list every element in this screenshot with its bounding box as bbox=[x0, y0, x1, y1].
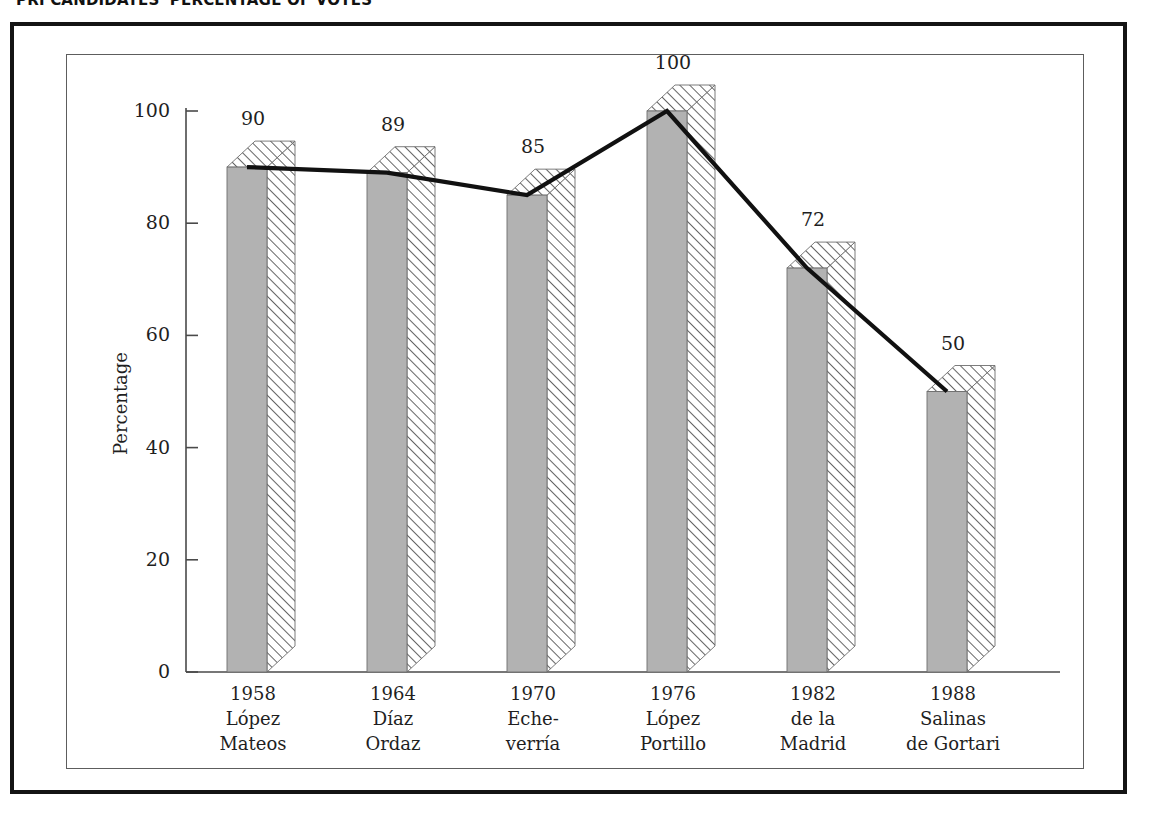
x-tick-candidate-line-1: López bbox=[178, 706, 328, 731]
x-tick-label-1958: 1958LópezMateos bbox=[178, 681, 328, 756]
x-tick-candidate-line-2: Madrid bbox=[738, 731, 888, 756]
bar-value-label-1958: 90 bbox=[213, 107, 293, 129]
x-tick-label-1988: 1988Salinasde Gortari bbox=[878, 681, 1028, 756]
x-tick-year: 1964 bbox=[318, 681, 468, 706]
bar-value-label-1988: 50 bbox=[913, 332, 993, 354]
x-tick-label-1964: 1964DíazOrdaz bbox=[318, 681, 468, 756]
bar-value-label-1976: 100 bbox=[633, 51, 713, 73]
x-tick-candidate-line-1: Díaz bbox=[318, 706, 468, 731]
x-tick-year: 1976 bbox=[598, 681, 748, 706]
x-tick-year: 1988 bbox=[878, 681, 1028, 706]
x-tick-label-1982: 1982de laMadrid bbox=[738, 681, 888, 756]
x-tick-candidate-line-2: de Gortari bbox=[878, 731, 1028, 756]
x-tick-year: 1970 bbox=[458, 681, 608, 706]
page-title: PRI CANDIDATES' PERCENTAGE OF VOTES bbox=[16, 0, 372, 9]
y-tick-label: 20 bbox=[124, 548, 170, 570]
y-tick-label: 60 bbox=[124, 323, 170, 345]
x-tick-candidate-line-1: Eche- bbox=[458, 706, 608, 731]
figure-inner-border bbox=[66, 54, 1084, 769]
y-axis-title: Percentage bbox=[110, 352, 131, 455]
x-tick-label-1970: 1970Eche-verría bbox=[458, 681, 608, 756]
x-tick-candidate-line-2: Mateos bbox=[178, 731, 328, 756]
y-tick-label: 100 bbox=[124, 99, 170, 121]
x-tick-candidate-line-1: Salinas bbox=[878, 706, 1028, 731]
bar-value-label-1982: 72 bbox=[773, 208, 853, 230]
x-tick-year: 1958 bbox=[178, 681, 328, 706]
x-tick-candidate-line-2: verría bbox=[458, 731, 608, 756]
x-tick-year: 1982 bbox=[738, 681, 888, 706]
x-tick-label-1976: 1976LópezPortillo bbox=[598, 681, 748, 756]
bar-value-label-1970: 85 bbox=[493, 135, 573, 157]
x-tick-candidate-line-1: López bbox=[598, 706, 748, 731]
x-tick-candidate-line-1: de la bbox=[738, 706, 888, 731]
y-tick-label: 0 bbox=[124, 660, 170, 682]
bar-value-label-1964: 89 bbox=[353, 113, 433, 135]
x-tick-candidate-line-2: Portillo bbox=[598, 731, 748, 756]
x-tick-candidate-line-2: Ordaz bbox=[318, 731, 468, 756]
y-tick-label: 80 bbox=[124, 211, 170, 233]
